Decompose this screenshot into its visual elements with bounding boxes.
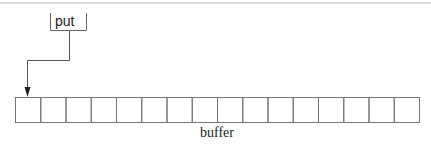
buffer-cell [117, 98, 142, 123]
buffer-cell [41, 98, 66, 123]
buffer-cell [167, 98, 192, 123]
put-label: put [55, 13, 75, 29]
buffer-cell [142, 98, 167, 123]
buffer-cell [344, 98, 369, 123]
buffer-cell [319, 98, 344, 123]
buffer-cell [218, 98, 243, 123]
buffer-cell [369, 98, 394, 123]
pointer-line [28, 31, 70, 91]
buffer-cell [192, 98, 217, 123]
buffer-cell [268, 98, 293, 123]
diagram-canvas: put buffer [0, 0, 431, 144]
buffer-cell [16, 98, 41, 123]
arrowhead-icon [25, 87, 31, 97]
buffer-cell [243, 98, 268, 123]
buffer-cell [394, 98, 419, 123]
buffer-cell [91, 98, 116, 123]
put-pointer: put [25, 13, 87, 97]
buffer-cell [66, 98, 91, 123]
buffer-cell [293, 98, 318, 123]
buffer-cells [16, 98, 420, 123]
buffer-label: buffer [200, 125, 234, 140]
